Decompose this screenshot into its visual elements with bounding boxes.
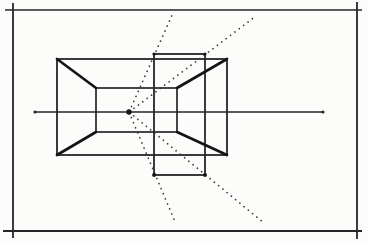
projected-face-corner-dot <box>203 52 206 55</box>
projected-face-corner-dot <box>203 173 207 177</box>
projected-face-corner-dot <box>152 52 155 55</box>
receding-edge-top-right <box>177 59 227 88</box>
back-face-rect <box>96 88 177 132</box>
vanishing-point-dot <box>126 109 131 114</box>
perspective-figure <box>0 0 368 242</box>
receding-edge-bottom-left <box>57 132 96 155</box>
receding-edge-bottom-right <box>177 132 227 155</box>
receding-edge-top-left <box>57 59 96 88</box>
perspective-diagram-svg <box>0 0 368 242</box>
construction-ray-upper-right <box>134 16 256 108</box>
horizon-end-dot <box>33 110 36 113</box>
projected-face-rect <box>154 54 205 175</box>
projected-face-corner-dot <box>152 173 156 177</box>
horizon-end-dot <box>321 110 324 113</box>
